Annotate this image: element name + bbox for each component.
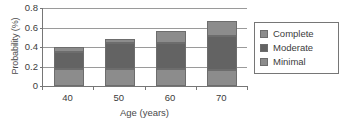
bar-segment-minimal (54, 69, 84, 86)
x-axis-tick-mark (247, 86, 248, 90)
legend-item-minimal: Minimal (260, 55, 334, 69)
bar-40 (54, 8, 84, 86)
legend-swatch-icon (260, 58, 268, 66)
bar-segment-moderate (105, 43, 135, 69)
stacked-bar-chart: Probability (%) 0.80.60.40.20 40506070 A… (0, 0, 343, 129)
y-axis-tick-label: 0.4 (25, 42, 38, 52)
y-axis-tick-label: 0 (33, 81, 38, 91)
bar-50 (105, 8, 135, 86)
y-axis-tick-label: 0.6 (25, 23, 38, 33)
x-axis-tick-labels: 40506070 (42, 92, 247, 105)
bar-segment-complete (105, 39, 135, 43)
chart-legend: CompleteModerateMinimal (254, 22, 339, 74)
bar-group (43, 8, 247, 86)
bar-segment-minimal (105, 69, 135, 86)
x-axis-tick-label: 70 (216, 92, 227, 103)
bar-60 (156, 8, 186, 86)
bar-segment-complete (207, 21, 237, 36)
bar-segment-complete (156, 31, 186, 42)
bar-segment-moderate (207, 36, 237, 70)
bar-segment-moderate (156, 43, 186, 70)
legend-item-label: Complete (273, 29, 314, 39)
bar-segment-minimal (156, 69, 186, 86)
legend-item-complete: Complete (260, 27, 334, 41)
x-axis-tick-mark (196, 86, 197, 90)
x-axis-tick-mark (93, 86, 94, 90)
x-axis-title: Age (years) (42, 107, 247, 118)
bar-segment-complete (54, 47, 84, 52)
bar-segment-moderate (54, 52, 84, 70)
y-axis-tick-label: 0.8 (25, 3, 38, 13)
legend-item-moderate: Moderate (260, 41, 334, 55)
legend-swatch-icon (260, 44, 268, 52)
x-axis-tick-marks (42, 86, 247, 91)
x-axis-tick-label: 40 (62, 92, 73, 103)
legend-swatch-icon (260, 30, 268, 38)
bar-70 (207, 8, 237, 86)
x-axis-tick-mark (145, 86, 146, 90)
legend-item-label: Minimal (273, 57, 306, 67)
y-axis-tick-labels: 0.80.60.40.20 (14, 8, 38, 86)
x-axis-tick-label: 60 (165, 92, 176, 103)
x-axis-tick-mark (42, 86, 43, 90)
y-axis-tick-label: 0.2 (25, 62, 38, 72)
bar-segment-minimal (207, 70, 237, 86)
legend-item-label: Moderate (273, 43, 313, 53)
plot-area (42, 8, 247, 86)
x-axis-tick-label: 50 (114, 92, 125, 103)
